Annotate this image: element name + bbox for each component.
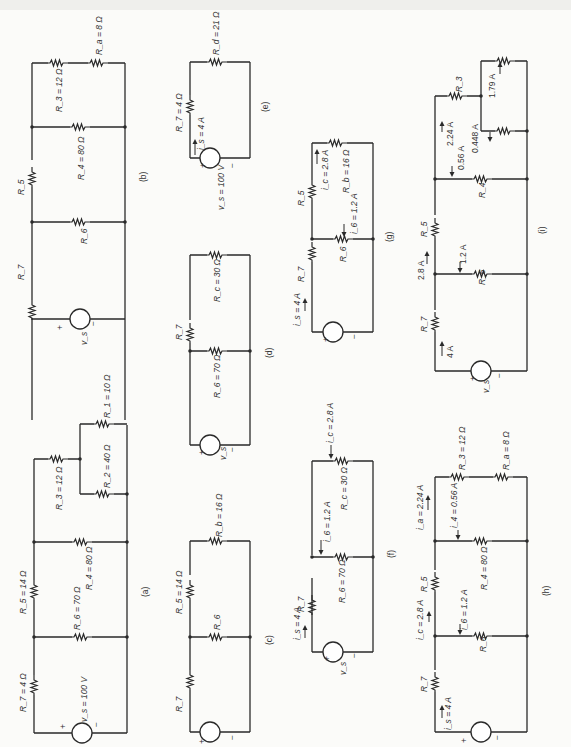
label-vs: v_s — [79, 331, 89, 345]
label-R6: R_6 — [79, 228, 89, 244]
label-ic: i_c = 2.8 A — [415, 600, 425, 640]
label-R7: R_7 — [174, 324, 184, 340]
label-R4: R_4 = 80 Ω — [84, 546, 94, 590]
label-R7: R_7 = 4 Ω — [18, 673, 28, 712]
resistor-R7 — [432, 672, 438, 692]
caption-a: (a) — [140, 586, 150, 597]
resistor-R5 — [432, 218, 438, 238]
label-R7: R_7 — [174, 696, 184, 712]
resistor-R3 — [447, 93, 467, 99]
label-R1: R_1 = 10 Ω — [102, 374, 112, 418]
label-R5: R_5 — [419, 221, 429, 237]
resistor-R5 — [31, 580, 37, 600]
panel-g: + − i_s = 4 A R_7 R_6 i_6 = 1.2 A R_5 i_… — [292, 140, 394, 342]
label-i6: i_6 = 1.2 A — [322, 501, 332, 542]
label-i-R5: 2.8 A — [416, 260, 426, 280]
label-R5: R_5 — [419, 576, 429, 592]
label-R7: R_7 — [16, 264, 26, 280]
label-vs: v_s = 100 V — [79, 676, 89, 722]
resistor-Rb — [207, 538, 227, 544]
plus-sign: + — [197, 450, 207, 455]
panel-h: + − i_s = 4 A R_7 R_6 i_6 = 1.2 A i_c = … — [415, 426, 551, 743]
panel-a: + − v_s = 100 V R_7 = 4 Ω R_5 = 14 Ω R_6… — [18, 374, 150, 743]
resistor-R2 — [495, 128, 515, 134]
minus-sign: − — [227, 447, 237, 452]
panel-d: + − v_s R_7 R_6 = 70 Ω R_c = 30 Ω (d) — [174, 252, 274, 460]
voltage-source-vs — [70, 309, 90, 329]
resistor-R7 — [187, 95, 193, 115]
plus-sign: + — [58, 724, 68, 729]
minus-sign: − — [227, 735, 237, 740]
label-i2: 0.448 A — [470, 124, 480, 153]
label-vs: v_s — [218, 446, 228, 460]
resistor-R5 — [432, 572, 438, 592]
label-R3: R_3 = 12 Ω — [54, 68, 64, 112]
label-R3: R_3 = 12 Ω — [54, 466, 64, 510]
resistor-R5 — [187, 580, 193, 600]
resistor-R1 — [495, 58, 515, 64]
caption-f: (f) — [386, 550, 396, 558]
label-R5: R_5 — [16, 179, 26, 195]
label-i4: 0.56 A — [456, 146, 466, 170]
label-R4: R_4 = 80 Ω — [479, 546, 489, 590]
resistor-R4 — [70, 124, 90, 130]
label-R7: R_7 — [419, 316, 429, 332]
resistor-R7 — [31, 675, 37, 695]
label-R4: R_4 = 80 Ω — [76, 136, 86, 180]
resistor-R7 — [29, 300, 35, 320]
label-i6: i_6 = 1.2 A — [349, 193, 359, 234]
plus-sign: + — [321, 337, 331, 342]
caption-g: (g) — [384, 231, 394, 242]
voltage-source — [200, 722, 220, 742]
resistor-R4 — [472, 176, 492, 182]
label-R7: R_7 — [296, 596, 306, 612]
resistor-Ra — [493, 474, 513, 480]
panel-b: + − v_s R_5 R_7 R_6 R_4 = 80 Ω R_3 = 12 … — [16, 16, 148, 420]
resistor-R3 — [48, 456, 68, 462]
resistor-R5 — [29, 167, 35, 187]
label-Ra: R_a = 8 Ω — [94, 16, 104, 55]
label-i1: 1.79 A — [487, 74, 497, 98]
minus-sign: − — [88, 321, 98, 326]
resistor-R6 — [72, 634, 92, 640]
label-R6: R_6 — [212, 614, 222, 630]
label-R2: R_2 = 40 Ω — [102, 444, 112, 488]
label-Ra: R_a = 8 Ω — [501, 431, 511, 470]
plus-sign: + — [198, 163, 208, 168]
caption-e: (e) — [260, 101, 270, 112]
label-ia: i_a = 2.24 A — [415, 484, 425, 530]
resistor-Ra — [88, 60, 108, 66]
resistor-R7 — [187, 670, 193, 690]
label-Rc: R_c = 30 Ω — [212, 258, 222, 302]
resistor-Rc — [207, 252, 227, 258]
label-ia: 2.24 A — [445, 122, 455, 146]
resistor-R6 — [207, 348, 227, 354]
resistor-R6 — [207, 634, 227, 640]
resistor-Rc — [333, 458, 353, 464]
label-R7: R_7 — [419, 676, 429, 692]
resistor-R3 — [48, 60, 68, 66]
resistor-R6 — [333, 236, 353, 242]
label-R4: R_4 — [477, 182, 487, 198]
label-Rb: R_b = 16 Ω — [214, 493, 224, 537]
voltage-source-vs — [72, 723, 92, 743]
panel-c: + − R_5 = 14 Ω R_7 R_6 R_b = 16 Ω (c) — [174, 493, 274, 744]
minus-sign: − — [492, 735, 502, 740]
label-i6: 1.2 A — [458, 244, 468, 264]
panel-i: + − v_s 4 A R_7 2.8 A 1.2 A R_6 R_5 R_4 … — [416, 58, 547, 393]
resistor-R6 — [333, 554, 353, 560]
resistor-R7 — [309, 242, 315, 262]
minus-sign: − — [91, 722, 101, 727]
label-R6: R_6 = 70 Ω — [212, 354, 222, 398]
label-i6: i_6 = 1.2 A — [459, 589, 469, 630]
plus-sign: + — [55, 325, 65, 330]
minus-sign: − — [227, 163, 237, 168]
label-R7: R_7 = 4 Ω — [174, 93, 184, 132]
label-i4: i_4 = 0.56 A — [449, 482, 459, 528]
label-vs: v_s — [338, 661, 348, 675]
resistor-Rd — [207, 59, 227, 65]
panel-f: + − v_s i_s = 4 A R_7 R_6 = 70 Ω i_6 = 1… — [292, 403, 396, 675]
label-vs: v_s — [481, 379, 491, 393]
label-R7: R_7 — [296, 266, 306, 282]
resistor-R7 — [187, 323, 193, 343]
